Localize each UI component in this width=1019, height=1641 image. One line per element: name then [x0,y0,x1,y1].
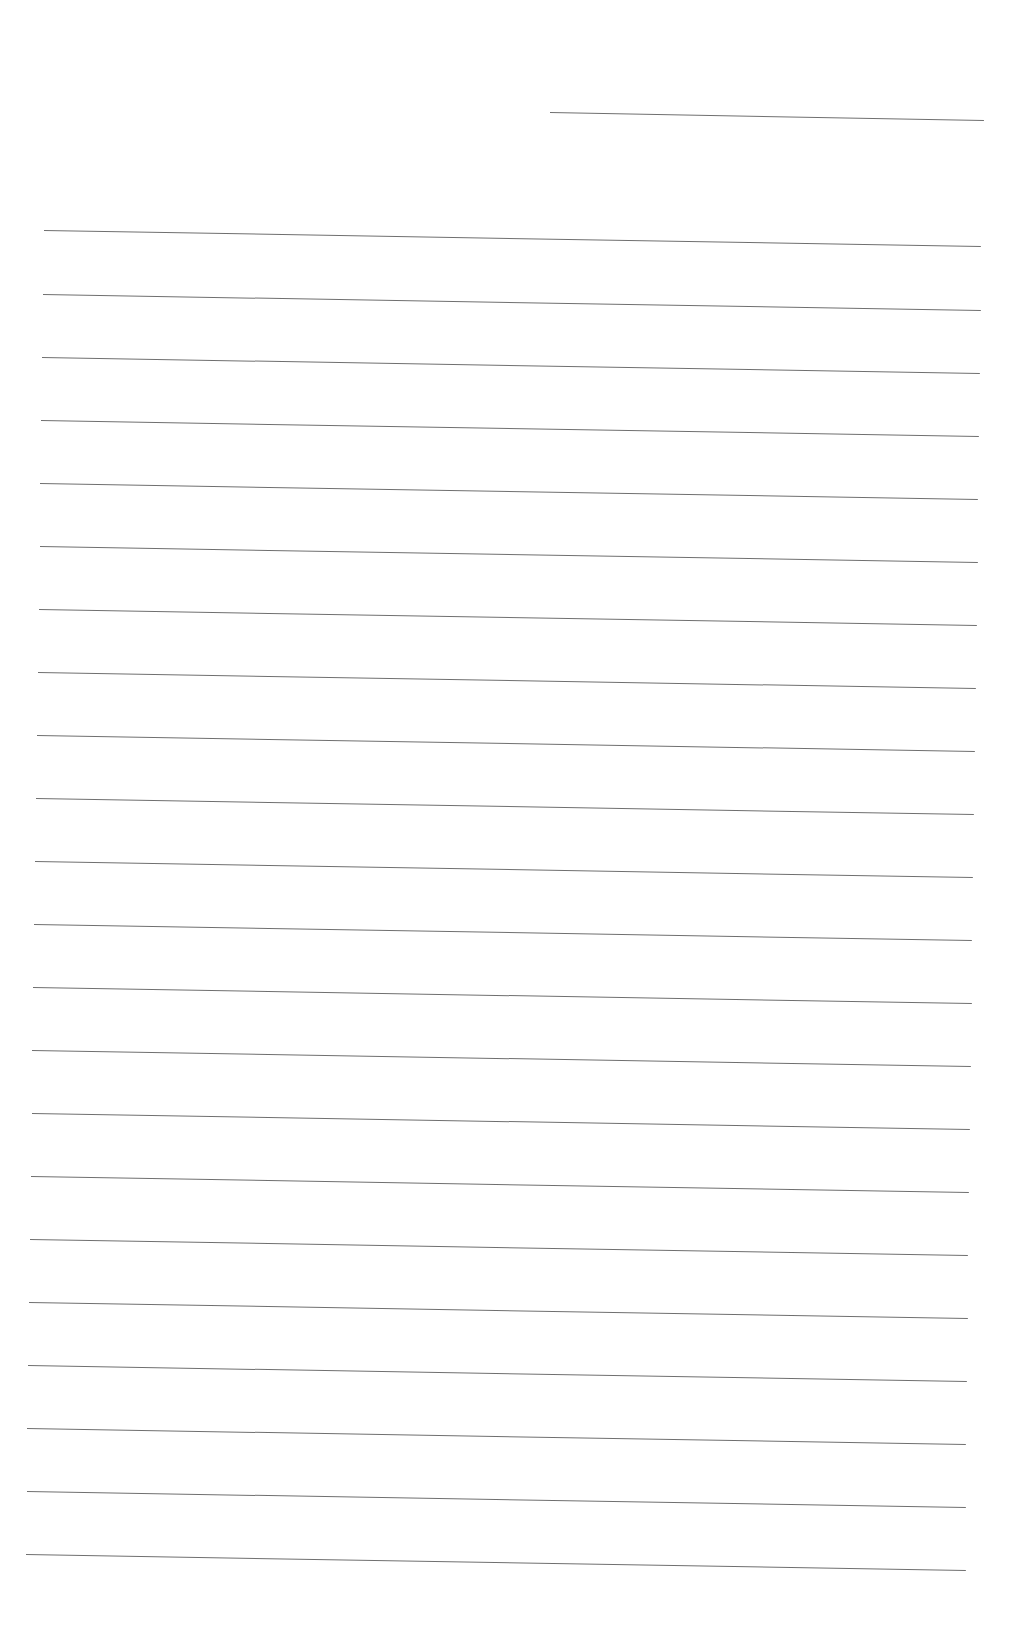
ruled-line [27,1428,966,1445]
ruled-line [28,1365,967,1382]
ruled-line [35,861,973,878]
ruled-line [40,546,978,563]
ruled-line [37,735,975,752]
ruled-line [42,357,980,374]
ruled-line [27,1491,966,1508]
ruled-line [32,1113,970,1130]
ruled-line [31,1176,969,1193]
ruled-line [32,1050,971,1067]
header-line [550,112,984,121]
ruled-line [38,672,976,689]
ruled-line [34,924,972,941]
ruled-line [40,483,978,500]
ruled-line [30,1239,968,1256]
ruled-line [26,1554,966,1571]
ruled-line [36,798,974,815]
ruled-line [41,420,979,437]
ruled-line [33,987,972,1004]
ruled-line [39,609,977,626]
ruled-line [29,1302,968,1319]
ruled-line [43,294,981,311]
ruled-line [44,230,981,247]
